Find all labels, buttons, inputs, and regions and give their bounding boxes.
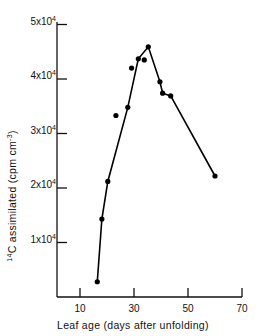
chart-canvas	[0, 0, 257, 336]
x-tick-label: 10	[68, 303, 92, 314]
y-label-exponent: -3	[6, 134, 13, 141]
x-tick-label: 70	[230, 303, 254, 314]
data-point	[129, 66, 134, 71]
y-ticks	[57, 25, 67, 243]
data-point	[168, 93, 173, 98]
y-axis-label: 14C assimilated (cpm cm-3)	[6, 130, 18, 262]
data-point	[105, 179, 110, 184]
data-point	[99, 216, 104, 221]
data-point	[113, 113, 118, 118]
x-tick-label: 50	[176, 303, 200, 314]
data-point	[212, 173, 217, 178]
y-tick-label: 4x104	[0, 69, 56, 81]
data-point	[142, 57, 147, 62]
y-label-main: C assimilated (cpm cm	[6, 141, 18, 253]
data-point	[136, 56, 141, 61]
y-label-suffix: )	[6, 130, 18, 134]
data-point	[125, 105, 130, 110]
series-line	[97, 47, 215, 282]
x-axis-label: Leaf age (days after unfolding)	[57, 319, 209, 331]
data-point	[160, 91, 165, 96]
x-ticks	[80, 288, 242, 297]
data-point	[95, 279, 100, 284]
y-tick-label: 5x104	[0, 15, 56, 27]
y-label-isotope: 14	[6, 253, 13, 261]
data-point	[146, 44, 151, 49]
x-tick-label: 30	[122, 303, 146, 314]
data-point	[157, 79, 162, 84]
